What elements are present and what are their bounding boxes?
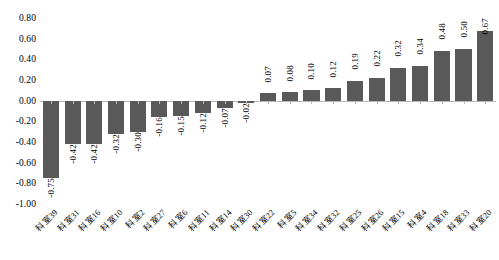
- x-tick-mark: [203, 101, 204, 104]
- bar-slot: 0.32: [388, 18, 410, 204]
- y-tick-label: -0.60: [16, 158, 36, 168]
- x-tick-mark: [138, 101, 139, 104]
- bar-value-label: 0.12: [328, 61, 338, 78]
- bar-value-label: -0.07: [220, 108, 230, 128]
- bar[interactable]: [282, 92, 298, 100]
- bar-slot: -0.32: [105, 18, 127, 204]
- x-tick-mark: [73, 101, 74, 104]
- bar[interactable]: [325, 88, 341, 100]
- bar-slot: -0.30: [127, 18, 149, 204]
- bar-slot: -0.42: [62, 18, 84, 204]
- x-label-slot: 科室27: [149, 204, 171, 260]
- bar-value-label: 0.19: [350, 53, 360, 70]
- x-label-slot: 科室2: [127, 204, 149, 260]
- bar-slot: 0.08: [279, 18, 301, 204]
- y-tick-label: -0.40: [16, 137, 36, 147]
- x-tick-mark: [290, 101, 291, 104]
- bar[interactable]: [477, 31, 493, 100]
- bar[interactable]: [455, 49, 471, 101]
- bar[interactable]: [65, 101, 81, 144]
- bar-slot: 0.50: [453, 18, 475, 204]
- y-tick-label: -1.00: [16, 199, 36, 209]
- bar-value-label: -0.12: [198, 113, 208, 133]
- x-label-slot: 科室34: [301, 204, 323, 260]
- x-label-slot: 科室25: [344, 204, 366, 260]
- x-label-slot: 科室30: [235, 204, 257, 260]
- y-tick-label: -0.20: [16, 116, 36, 126]
- bar-slot: -0.12: [192, 18, 214, 204]
- bar-value-label: 0.22: [372, 50, 382, 67]
- x-tick-mark: [464, 101, 465, 104]
- plot-area: -0.75-0.42-0.42-0.32-0.30-0.16-0.15-0.12…: [40, 18, 496, 204]
- x-tick-mark: [377, 101, 378, 104]
- x-label-slot: 科室15: [387, 204, 409, 260]
- x-label-slot: 科室32: [322, 204, 344, 260]
- x-label-slot: 科室33: [453, 204, 475, 260]
- x-tick-mark: [311, 101, 312, 104]
- x-label-slot: 科室20: [474, 204, 496, 260]
- x-label-slot: 科室4: [409, 204, 431, 260]
- y-tick-label: 0.40: [19, 54, 36, 64]
- bar[interactable]: [412, 66, 428, 101]
- bar-value-label: -0.16: [154, 117, 164, 137]
- bar-chart: 0.800.600.400.200.00-0.20-0.40-0.60-0.80…: [0, 0, 499, 260]
- bar-slot: -0.07: [214, 18, 236, 204]
- bar-value-label: -0.30: [133, 132, 143, 152]
- bars-container: -0.75-0.42-0.42-0.32-0.30-0.16-0.15-0.12…: [40, 18, 496, 204]
- x-label-slot: 科室14: [214, 204, 236, 260]
- x-tick-mark: [94, 101, 95, 104]
- x-tick-mark: [442, 101, 443, 104]
- x-label-slot: 科室16: [83, 204, 105, 260]
- bar-value-label: 0.67: [480, 18, 490, 35]
- bar-slot: -0.42: [83, 18, 105, 204]
- x-tick-mark: [485, 101, 486, 104]
- x-label-slot: 科室31: [62, 204, 84, 260]
- bar-value-label: 0.08: [285, 65, 295, 82]
- bar-slot: 0.22: [366, 18, 388, 204]
- y-tick-label: 0.80: [19, 13, 36, 23]
- y-tick-label: -0.80: [16, 178, 36, 188]
- bar-value-label: 0.50: [459, 21, 469, 38]
- bar[interactable]: [434, 51, 450, 101]
- bar[interactable]: [303, 90, 319, 100]
- x-label-slot: 科室11: [192, 204, 214, 260]
- bar[interactable]: [390, 68, 406, 101]
- x-tick-mark: [398, 101, 399, 104]
- x-label-slot: 科室18: [431, 204, 453, 260]
- x-axis: 科室39科室31科室16科室10科室2科室27科室6科室11科室14科室30科室…: [40, 204, 496, 260]
- bar-slot: -0.15: [170, 18, 192, 204]
- bar-value-label: -0.42: [89, 144, 99, 164]
- x-tick-mark: [51, 101, 52, 104]
- y-axis: 0.800.600.400.200.00-0.20-0.40-0.60-0.80…: [0, 0, 40, 260]
- y-tick-label: 0.00: [19, 96, 36, 106]
- bar-value-label: 0.48: [437, 23, 447, 40]
- bar[interactable]: [108, 101, 124, 134]
- bar-slot: 0.19: [344, 18, 366, 204]
- bar[interactable]: [369, 78, 385, 101]
- x-tick-mark: [355, 101, 356, 104]
- bar-value-label: -0.15: [176, 116, 186, 136]
- bar-value-label: 0.34: [415, 38, 425, 55]
- y-tick-label: 0.20: [19, 75, 36, 85]
- x-label-slot: 科室5: [279, 204, 301, 260]
- bar[interactable]: [86, 101, 102, 144]
- bar-slot: 0.07: [257, 18, 279, 204]
- x-label-slot: 科室10: [105, 204, 127, 260]
- bar-value-label: -0.32: [111, 134, 121, 154]
- x-tick-mark: [159, 101, 160, 104]
- bar-slot: 0.12: [322, 18, 344, 204]
- y-tick-label: 0.60: [19, 34, 36, 44]
- bar[interactable]: [260, 93, 276, 100]
- x-label-slot: 科室39: [40, 204, 62, 260]
- bar[interactable]: [130, 101, 146, 132]
- x-tick-mark: [268, 101, 269, 104]
- x-tick-mark: [181, 101, 182, 104]
- x-label-slot: 科室26: [366, 204, 388, 260]
- bar-value-label: -0.02: [241, 103, 251, 123]
- x-label-slot: 科室6: [170, 204, 192, 260]
- bar-value-label: -0.42: [68, 144, 78, 164]
- bar[interactable]: [43, 101, 59, 179]
- bar[interactable]: [347, 81, 363, 101]
- x-label-slot: 科室22: [257, 204, 279, 260]
- bar-slot: -0.02: [235, 18, 257, 204]
